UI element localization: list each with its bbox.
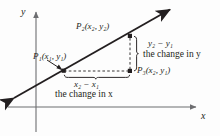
point-marker-p2 bbox=[128, 34, 132, 38]
slope-diagram: y x P₁(x₁, y₁) P₂(x₂, y₂) P₃(x₂, y₁) y₂ … bbox=[0, 0, 220, 136]
change-in-y-label: the change in y bbox=[143, 50, 201, 60]
point-marker-p1 bbox=[62, 69, 66, 73]
point-label-p3: P₃(x₂, y₁) bbox=[137, 66, 170, 75]
point-marker-p3 bbox=[128, 69, 132, 73]
p1-pointer-arrowhead bbox=[56, 65, 62, 71]
x-axis-label: x bbox=[201, 111, 205, 122]
diagram-canvas bbox=[0, 0, 220, 136]
delta-y-label: y₂ − y₁ bbox=[148, 39, 173, 48]
point-label-p1: P₁(x₁, y₁) bbox=[33, 52, 66, 61]
y-axis-label: y bbox=[21, 7, 25, 18]
point-label-p2: P₂(x₂, y₂) bbox=[76, 22, 109, 31]
change-in-x-label: the change in x bbox=[55, 90, 113, 100]
